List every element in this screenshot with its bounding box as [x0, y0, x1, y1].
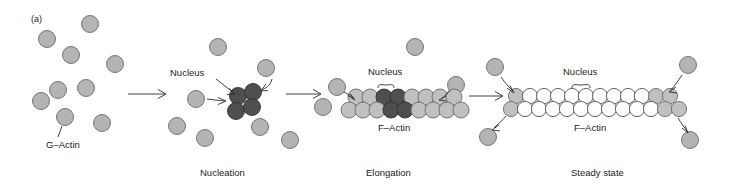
g-actin-monomer — [188, 91, 205, 108]
nucleus-brace-steady-state — [572, 85, 590, 88]
incoming-monomer-right — [680, 57, 697, 74]
transition-arrow-2 — [286, 90, 321, 99]
panel-elongation: Nucleus F–Actin Elongation — [315, 39, 470, 179]
outgoing-monomer-left — [480, 129, 497, 146]
addition-arrow-right — [671, 75, 682, 90]
g-actin-monomer — [282, 132, 299, 149]
g-actin-monomer — [258, 60, 275, 77]
g-actin-monomer — [107, 56, 124, 73]
dissociation-arrow-right — [678, 118, 687, 131]
diagram-canvas: (a) G–Actin — [0, 0, 733, 192]
addition-arrow-right — [262, 79, 272, 90]
panel-nucleation: Nucleus Nucleation — [169, 39, 299, 179]
g-actin-monomer — [78, 80, 95, 97]
g-actin-monomer — [57, 109, 74, 126]
g-actin-monomer — [39, 31, 56, 48]
filament-bottom-row — [341, 102, 469, 118]
panel-label: (a) — [31, 14, 42, 24]
nucleus-subunit — [245, 84, 262, 101]
g-actin-monomer — [407, 39, 424, 56]
nucleus-label-elongation: Nucleus — [368, 66, 403, 77]
dissociation-arrow-left — [494, 116, 506, 128]
g-actin-monomer — [329, 79, 346, 96]
panel-steady-state: Nucleus F–Actin Steady state — [480, 57, 699, 179]
stage-caption-elongation: Elongation — [366, 167, 411, 178]
f-actin-label-elongation: F–Actin — [378, 122, 410, 133]
addition-arrowhead-right — [261, 84, 268, 91]
g-actin-monomer — [63, 47, 80, 64]
nucleus-label-steady-state: Nucleus — [563, 66, 598, 77]
transition-arrow-3 — [469, 92, 503, 101]
stage-caption-steady-state: Steady state — [571, 167, 624, 178]
stage-caption-nucleation: Nucleation — [200, 167, 245, 178]
nucleus-label-nucleation: Nucleus — [170, 67, 205, 78]
g-actin-monomer — [50, 82, 67, 99]
nucleus-subunit — [228, 103, 245, 120]
filament-bottom-row — [503, 101, 686, 116]
g-actin-monomer — [94, 115, 111, 132]
g-actin-leader-line — [58, 126, 62, 137]
g-actin-monomer — [252, 119, 269, 136]
g-actin-label: G–Actin — [46, 139, 80, 150]
nucleus-brace-elongation — [378, 85, 394, 88]
transition-arrow-1 — [128, 90, 166, 99]
panel-monomers: G–Actin — [33, 16, 124, 151]
dissociation-arrowhead-right — [682, 126, 688, 134]
g-actin-monomer — [82, 16, 99, 33]
g-actin-monomer — [169, 118, 186, 135]
g-actin-monomer — [210, 39, 227, 56]
outgoing-monomer-right — [682, 132, 699, 149]
actin-polymerization-figure: (a) G–Actin — [0, 0, 733, 192]
incoming-monomer-left — [487, 59, 504, 76]
nucleus-subunit — [230, 88, 247, 105]
f-actin-label-steady-state: F–Actin — [574, 122, 606, 133]
addition-arrow-left — [501, 77, 513, 91]
g-actin-monomer — [197, 130, 214, 147]
g-actin-monomer — [315, 99, 332, 116]
g-actin-monomer — [33, 93, 50, 110]
nucleus-subunit — [244, 99, 261, 116]
